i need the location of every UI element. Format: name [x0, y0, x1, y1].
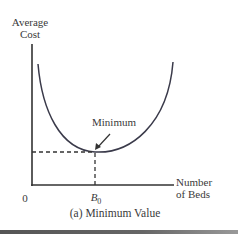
y-axis-label: Average Cost: [2, 16, 58, 40]
minimum-annotation: Minimum: [84, 116, 144, 128]
chart-caption: (a) Minimum Value: [40, 207, 190, 219]
minimum-arrow-line: [98, 134, 110, 147]
b0-subscript: 0: [97, 197, 101, 206]
b0-tick-label: B0: [85, 191, 107, 208]
origin-label: 0: [20, 192, 30, 204]
x-axis-label: Number of Beds: [176, 176, 236, 200]
bottom-divider: [0, 230, 238, 234]
x-axis-label-line2: of Beds: [176, 188, 236, 200]
x-axis-label-line1: Number: [176, 176, 236, 188]
y-axis-label-line1: Average: [2, 16, 58, 28]
y-axis-label-line2: Cost: [2, 28, 58, 40]
